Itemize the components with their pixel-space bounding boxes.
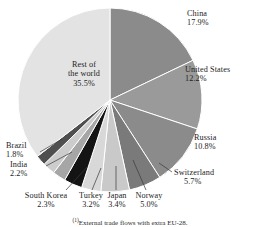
- slice-label-united-states: United States 12.2%: [185, 65, 230, 84]
- slice-label-norway-name: Norway: [129, 191, 169, 200]
- slice-label-china: China 17.9%: [187, 9, 209, 28]
- slice-label-norway: Norway 5.0%: [129, 191, 169, 210]
- slice-label-switzerland-name: Switzerland: [174, 168, 214, 177]
- slice-label-united-states-value: 12.2%: [185, 74, 230, 83]
- slice-label-rest-name-line2: the world: [52, 69, 116, 78]
- slice-label-turkey-name: Turkey: [73, 191, 109, 200]
- slice-label-norway-value: 5.0%: [129, 200, 169, 209]
- slice-label-india-name: India: [10, 160, 27, 169]
- slice-label-turkey-value: 3.2%: [73, 200, 109, 209]
- slice-label-china-name: China: [187, 9, 209, 18]
- slice-label-south-korea-value: 2.3%: [20, 200, 72, 209]
- slice-label-russia-name: Russia: [194, 133, 216, 142]
- slice-label-russia: Russia 10.8%: [194, 133, 216, 152]
- slice-label-united-states-name: United States: [185, 65, 230, 74]
- slice-label-brazil-name: Brazil: [6, 141, 27, 150]
- slice-label-switzerland: Switzerland 5.7%: [174, 168, 214, 187]
- slice-label-south-korea-name: South Korea: [20, 191, 72, 200]
- slice-label-russia-value: 10.8%: [194, 142, 216, 151]
- slice-label-brazil-value: 1.8%: [6, 150, 27, 159]
- slice-label-brazil: Brazil 1.8%: [6, 141, 27, 160]
- pie-slices-group: [18, 8, 202, 192]
- slice-label-rest-value: 35.5%: [52, 79, 116, 88]
- slice-label-rest-name-line1: Rest of: [52, 60, 116, 69]
- footnote-text: External trade flows with extra EU-28.: [79, 219, 188, 227]
- pie-chart: China 17.9% United States 12.2% Russia 1…: [0, 0, 260, 227]
- slice-label-china-value: 17.9%: [187, 18, 209, 27]
- slice-label-switzerland-value: 5.7%: [174, 177, 214, 186]
- slice-label-turkey: Turkey 3.2%: [73, 191, 109, 210]
- slice-label-south-korea: South Korea 2.3%: [20, 191, 72, 210]
- chart-footnote: (1)External trade flows with extra EU-28…: [0, 216, 260, 227]
- slice-label-india: India 2.2%: [10, 160, 27, 179]
- slice-label-india-value: 2.2%: [10, 169, 27, 178]
- slice-label-rest-of-the-world: Rest of the world 35.5%: [52, 60, 116, 88]
